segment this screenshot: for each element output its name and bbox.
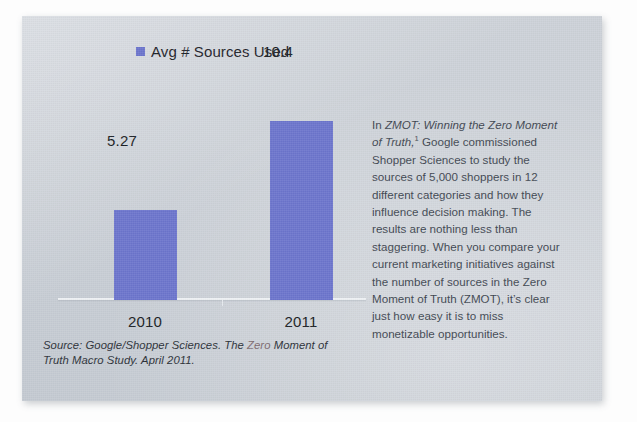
axis-tick [222,300,223,306]
body-copy: In ZMOT: Winning the Zero Moment of Trut… [372,116,562,342]
bar-2010 [114,210,177,300]
presentation-slide: Avg # Sources Used 5.27 2010 10.4 2011 S… [22,16,602,401]
bar-value-label-2010: 5.27 [90,132,154,149]
body-copy-lead: In [372,118,385,131]
legend-swatch-icon [136,47,145,56]
source-note-part1: Source: Google/Shopper Sciences. The [43,339,247,351]
category-label-2011: 2011 [269,313,333,330]
slide-photo: Avg # Sources Used 5.27 2010 10.4 2011 S… [0,0,637,422]
category-label-2010: 2010 [113,313,177,330]
body-copy-rest: Google commissioned Shopper Sciences to … [372,135,560,339]
bar-value-label-2011: 10.4 [246,43,310,60]
bar-chart: 5.27 2010 10.4 2011 [58,76,358,356]
source-note: Source: Google/Shopper Sciences. The Zer… [43,338,343,368]
bar-2011 [270,121,333,300]
source-note-highlight: Zero [247,339,270,351]
